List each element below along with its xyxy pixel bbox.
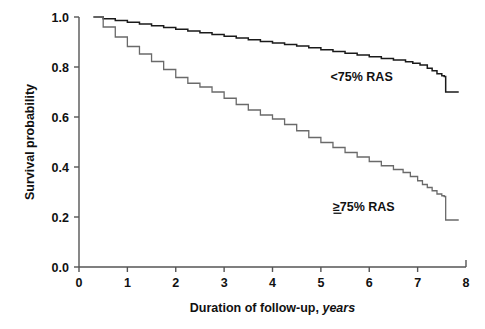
x-axis-title-units: years [321, 301, 355, 315]
x-tick-label: 1 [124, 276, 131, 290]
x-tick-label: 3 [221, 276, 228, 290]
x-tick-label: 4 [269, 276, 276, 290]
x-axis-ticks: 012345678 [76, 267, 470, 290]
y-tick-label: 0.0 [52, 261, 69, 275]
axes-group [79, 17, 466, 267]
x-tick-label: 6 [366, 276, 373, 290]
x-axis-title-main: Duration of follow-up, [190, 301, 319, 315]
y-axis-title: Survival probability [23, 84, 37, 200]
y-tick-label: 0.4 [52, 161, 69, 175]
chart-canvas: 0.00.20.40.60.81.0 012345678 <75% RAS≥75… [0, 0, 485, 329]
x-tick-label: 7 [414, 276, 421, 290]
y-tick-label: 0.8 [52, 61, 69, 75]
x-tick-label: 5 [317, 276, 324, 290]
y-tick-label: 0.6 [52, 111, 69, 125]
series-annotation-label: ≥75% RAS [333, 200, 395, 214]
series-annotations: <75% RAS≥75% RAS [331, 70, 395, 214]
x-tick-label: 8 [463, 276, 470, 290]
y-tick-label: 1.0 [52, 11, 69, 25]
x-tick-label: 0 [76, 276, 83, 290]
x-tick-label: 2 [172, 276, 179, 290]
series-annotation-label: <75% RAS [331, 70, 393, 84]
series-line-ge75-ras [94, 17, 459, 220]
x-axis-title: Duration of follow-up, years [190, 301, 355, 315]
survival-curve-figure: 0.00.20.40.60.81.0 012345678 <75% RAS≥75… [0, 0, 485, 329]
y-tick-label: 0.2 [52, 211, 69, 225]
y-axis-ticks: 0.00.20.40.60.81.0 [52, 11, 79, 275]
